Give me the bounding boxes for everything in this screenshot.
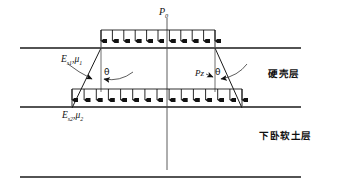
spread-angle-label-left: θ: [104, 67, 110, 77]
upper-load-arrows: [101, 30, 215, 41]
upper-soil-parameters-label: Es1,μ1: [61, 54, 82, 64]
lower-soil-parameters-label: Es2,μ2: [62, 110, 83, 120]
hard-crust-layer-label: 硬壳层: [268, 66, 300, 80]
transferred-pressure-label: Pz: [195, 68, 204, 78]
soft-soil-layer-label: 下卧软土层: [259, 128, 312, 142]
lower-distributed-load: [72, 89, 242, 106]
applied-load-label: P0: [159, 6, 168, 17]
applied-load-subscript: 0: [165, 12, 168, 19]
soil-stress-diagram: [0, 0, 339, 185]
lower-load-arrows: [72, 89, 242, 100]
upper-soil-label-leader: [68, 64, 92, 79]
upper-poisson-subscript: 1: [79, 60, 82, 66]
pz-label-leader: [206, 74, 213, 77]
upper-distributed-load: [101, 30, 215, 47]
figure-canvas: P0 Es1,μ1 Es2,μ2 Pz θ θ 硬壳层 下卧软土层: [0, 0, 339, 185]
spread-angle-label-right: θ: [215, 67, 221, 77]
lower-poisson-subscript: 2: [80, 116, 83, 122]
